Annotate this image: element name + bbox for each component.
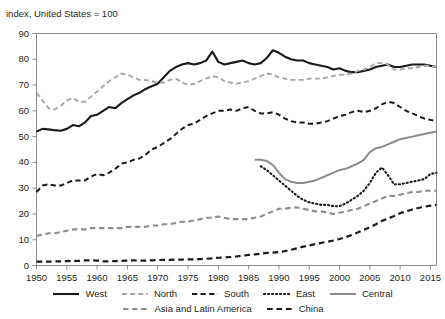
y-tick-label: 80 (5, 53, 29, 64)
series-line-north (37, 63, 437, 109)
x-tick-label: 2015 (413, 272, 445, 283)
legend-swatch-west (52, 289, 80, 299)
x-tick-label: 1960 (80, 272, 114, 283)
legend-label: East (296, 288, 315, 299)
chart-subtitle: index, United States = 100 (6, 8, 118, 19)
series-line-asia-and-latin-america (37, 191, 437, 236)
series-line-east (261, 166, 437, 206)
x-tick-label: 1975 (171, 272, 205, 283)
legend-item-central[interactable]: Central (329, 288, 393, 299)
y-tick-label: 40 (5, 156, 29, 167)
legend-label: North (154, 288, 177, 299)
y-tick-label: 20 (5, 208, 29, 219)
y-tick-label: 90 (5, 28, 29, 39)
legend-item-china[interactable]: China (266, 303, 324, 314)
chart-legend: WestNorthSouthEastCentral Asia and Latin… (0, 286, 445, 316)
y-tick-label: 10 (5, 234, 29, 245)
y-tick-label: 50 (5, 131, 29, 142)
legend-label: Central (362, 288, 393, 299)
legend-item-east[interactable]: East (263, 288, 315, 299)
x-tick-label: 1995 (292, 272, 326, 283)
legend-label: West (85, 288, 106, 299)
legend-row-primary: WestNorthSouthEastCentral (0, 286, 445, 301)
legend-item-north[interactable]: North (121, 288, 177, 299)
x-tick-label: 2000 (323, 272, 357, 283)
y-tick-label: 70 (5, 79, 29, 90)
legend-label: South (224, 288, 249, 299)
x-tick-label: 1985 (232, 272, 266, 283)
series-line-china (37, 205, 437, 262)
legend-swatch-central (329, 289, 357, 299)
x-tick-label: 1955 (50, 272, 84, 283)
x-tick-label: 1980 (201, 272, 235, 283)
legend-swatch-north (121, 289, 149, 299)
y-tick-label: 30 (5, 182, 29, 193)
y-tick-label: 0 (5, 260, 29, 271)
legend-item-asia-latin-america[interactable]: Asia and Latin America (122, 303, 252, 314)
x-tick-label: 1965 (110, 272, 144, 283)
x-tick-label: 1950 (20, 272, 54, 283)
chart-container: index, United States = 100 0102030405060… (0, 0, 445, 319)
x-tick-label: 2010 (383, 272, 417, 283)
legend-label: Asia and Latin America (155, 303, 252, 314)
x-tick-label: 1970 (141, 272, 175, 283)
legend-swatch-south (191, 289, 219, 299)
x-tick-label: 2005 (353, 272, 387, 283)
legend-item-west[interactable]: West (52, 288, 106, 299)
legend-row-secondary: Asia and Latin AmericaChina (0, 301, 445, 316)
legend-item-south[interactable]: South (191, 288, 249, 299)
legend-label: China (299, 303, 324, 314)
legend-swatch-east (263, 289, 291, 299)
series-line-central (255, 131, 437, 183)
y-tick-label: 60 (5, 105, 29, 116)
x-tick-label: 1990 (262, 272, 296, 283)
legend-swatch-china (266, 304, 294, 314)
legend-swatch-asia-latin-america (122, 304, 150, 314)
